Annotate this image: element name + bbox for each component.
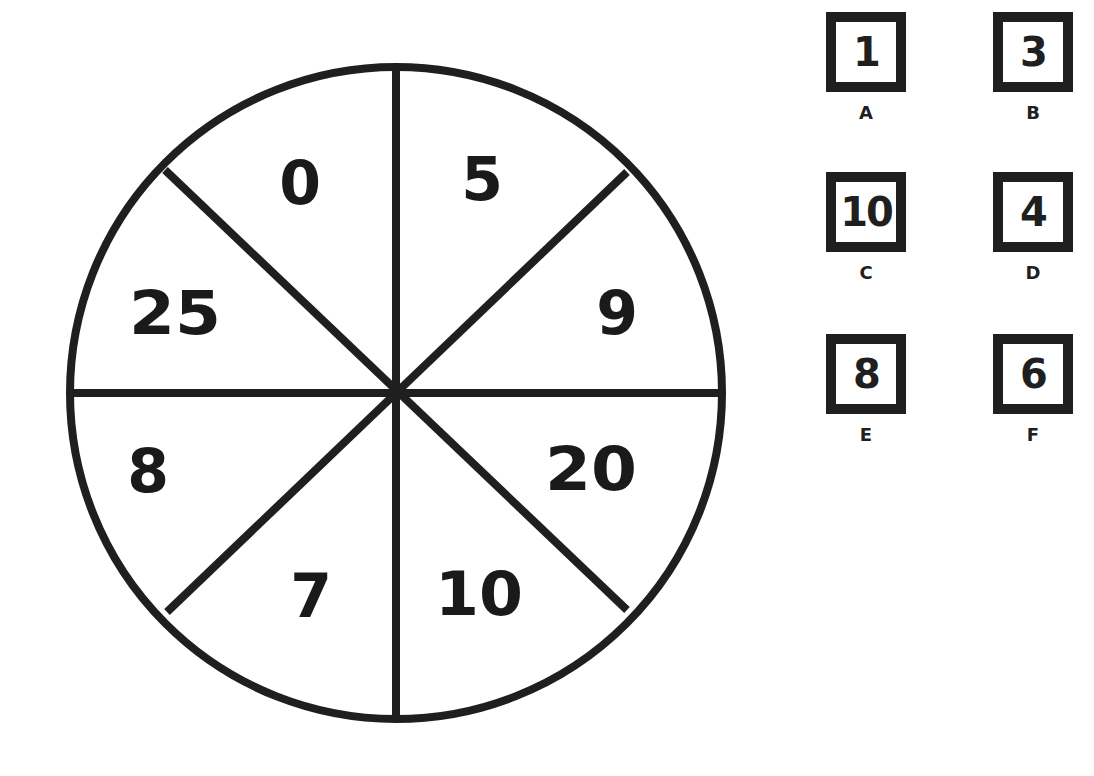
spinner-wheel: 0 5 9 20 10 7 8 25 (0, 0, 800, 776)
card-letter: D (986, 262, 1080, 283)
card-value: 3 (1020, 29, 1046, 75)
card-box: 1 (826, 12, 906, 92)
card-value: 8 (853, 351, 879, 397)
segment-label-top-right: 5 (461, 144, 503, 214)
segment-label-bottom-right: 10 (435, 559, 523, 629)
segment-label-left-upper: 25 (129, 278, 221, 348)
card-box: 3 (993, 12, 1073, 92)
card-box: 4 (993, 172, 1073, 252)
card-value: 6 (1020, 351, 1046, 397)
segment-label-top-left: 0 (279, 148, 321, 218)
card-value: 1 (853, 29, 879, 75)
card-d: 4 D (986, 172, 1080, 283)
card-value: 10 (840, 189, 892, 235)
card-box: 6 (993, 334, 1073, 414)
card-value: 4 (1020, 189, 1046, 235)
card-letter: A (819, 102, 913, 123)
card-e: 8 E (819, 334, 913, 445)
card-a: 1 A (819, 12, 913, 123)
segment-label-right-lower: 20 (545, 434, 637, 504)
card-f: 6 F (986, 334, 1080, 445)
segment-label-bottom-left: 7 (290, 561, 332, 631)
card-letter: C (819, 262, 913, 283)
card-c: 10 C (819, 172, 913, 283)
card-box: 10 (826, 172, 906, 252)
card-letter: F (986, 424, 1080, 445)
card-letter: B (986, 102, 1080, 123)
segment-label-right-upper: 9 (596, 278, 638, 348)
card-box: 8 (826, 334, 906, 414)
card-b: 3 B (986, 12, 1080, 123)
segment-label-left-lower: 8 (127, 436, 169, 506)
card-letter: E (819, 424, 913, 445)
